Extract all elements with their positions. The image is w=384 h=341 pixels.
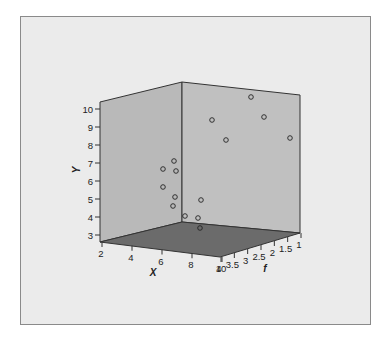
f-tick-label: 2 [270, 247, 275, 258]
y-tick-label: 5 [88, 194, 93, 205]
x-tick-label: 8 [188, 259, 193, 270]
f-tick-label: 2.5 [252, 251, 265, 262]
y-tick-label: 9 [88, 122, 93, 133]
f-tick-label: 1.5 [279, 243, 292, 254]
y-tick-label: 8 [88, 140, 93, 151]
x-tick-label: 6 [158, 256, 163, 267]
y-tick-label: 10 [82, 104, 93, 115]
plot-box [100, 82, 300, 257]
x-axis-title: X [149, 267, 158, 278]
x-tick-label: 2 [98, 248, 103, 259]
scatter-3d-plot: 34567891024681043.532.521.51 Y X f [0, 0, 384, 341]
back-wall [182, 82, 300, 233]
y-tick-label: 3 [88, 230, 93, 241]
y-tick-label: 4 [88, 212, 93, 223]
f-tick-label: 4 [216, 263, 221, 274]
f-tick-label: 3.5 [226, 259, 239, 270]
f-axis-title: f [263, 263, 268, 274]
x-tick-label: 4 [128, 252, 133, 263]
y-tick-label: 6 [88, 176, 93, 187]
left-wall [100, 82, 182, 242]
y-tick-label: 7 [88, 158, 93, 169]
f-tick-label: 3 [243, 255, 248, 266]
f-tick-label: 1 [296, 239, 301, 250]
y-axis-title: Y [71, 165, 82, 173]
